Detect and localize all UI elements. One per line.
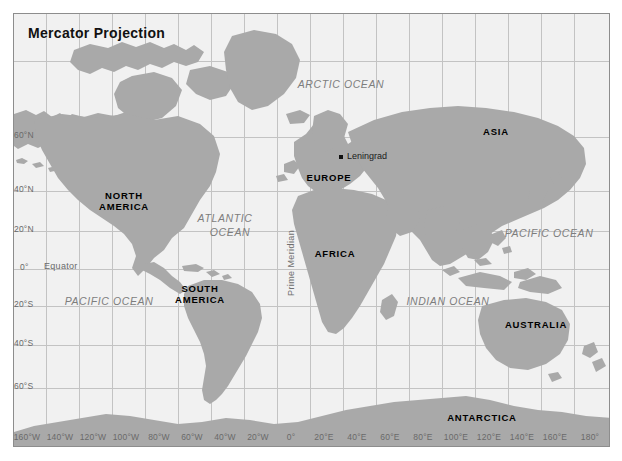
lon-tick-60e: 60°E (380, 432, 399, 442)
lon-tick-100w: 100°W (113, 432, 140, 442)
lon-tick-120w: 120°W (80, 432, 107, 442)
lon-tick-20w: 20°W (247, 432, 269, 442)
lon-tick-180: 180° (581, 432, 599, 442)
continent-label-north-america-line2: AMERICA (86, 201, 162, 212)
new-zealand-islands (582, 342, 606, 372)
ocean-label-atlantic-line1: ATLANTIC (180, 212, 270, 224)
mercator-projection-map: ARCTIC OCEAN ATLANTIC OCEAN PACIFIC OCEA… (0, 0, 622, 461)
ocean-label-arctic: ARCTIC OCEAN (286, 78, 396, 90)
lon-tick-40e: 40°E (347, 432, 366, 442)
continent-label-antarctica: ANTARCTICA (434, 412, 530, 423)
lon-tick-80w: 80°W (148, 432, 170, 442)
continent-label-europe: EUROPE (296, 172, 362, 183)
lon-tick-80e: 80°E (413, 432, 432, 442)
lat-tick-40s: 40°S (14, 338, 33, 348)
greenland-landmass (224, 30, 300, 110)
page-title: Mercator Projection (28, 25, 165, 41)
ocean-label-indian: INDIAN OCEAN (392, 295, 504, 307)
ocean-label-atlantic-line2: OCEAN (190, 226, 270, 238)
continent-label-south-america-line1: SOUTH (162, 283, 238, 294)
lon-tick-40w: 40°W (214, 432, 236, 442)
lat-tick-20s: 20°S (14, 299, 33, 309)
ocean-label-pacific-west: PACIFIC OCEAN (50, 295, 168, 307)
lon-tick-100e: 100°E (444, 432, 468, 442)
lat-tick-60s: 60°S (14, 381, 33, 391)
prime-meridian-annotation: Prime Meridian (286, 230, 296, 296)
australia-landmass (478, 298, 570, 370)
lon-tick-140w: 140°W (47, 432, 74, 442)
continent-label-south-america-line2: AMERICA (162, 294, 238, 305)
lat-tick-60n: 60°N (14, 130, 34, 140)
lon-tick-20e: 20°E (314, 432, 333, 442)
lon-tick-160e: 160°E (543, 432, 567, 442)
tasmania-island (548, 372, 562, 382)
continent-label-asia: ASIA (468, 126, 524, 137)
equator-annotation: Equator (44, 261, 78, 271)
ocean-label-pacific-east: PACIFIC OCEAN (490, 227, 608, 239)
iceland-landmass (286, 110, 310, 124)
lon-tick-60w: 60°W (181, 432, 203, 442)
lon-tick-0: 0° (287, 432, 296, 442)
lat-tick-20n: 20°N (14, 224, 34, 234)
map-frame: ARCTIC OCEAN ATLANTIC OCEAN PACIFIC OCEA… (13, 13, 610, 447)
continent-label-north-america-line1: NORTH (86, 190, 162, 201)
caribbean-islands (182, 264, 232, 280)
arctic-archipelago (70, 42, 204, 74)
city-label-leningrad: Leningrad (347, 151, 387, 161)
continent-label-australia: AUSTRALIA (493, 319, 579, 330)
lon-tick-120e: 120°E (477, 432, 501, 442)
lon-tick-140e: 140°E (510, 432, 534, 442)
lat-tick-40n: 40°N (14, 184, 34, 194)
lon-tick-160w: 160°W (14, 432, 41, 442)
city-marker-icon (339, 155, 343, 159)
lat-tick-0: 0° (20, 262, 29, 272)
continent-label-africa: AFRICA (302, 248, 368, 259)
